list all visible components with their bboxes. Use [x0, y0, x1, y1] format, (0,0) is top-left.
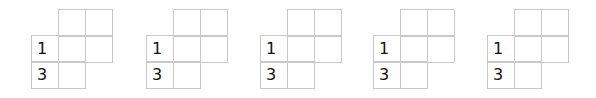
- grid-cell[interactable]: [85, 9, 113, 37]
- grid-cell[interactable]: 1: [487, 35, 515, 63]
- grid-cell[interactable]: [541, 35, 569, 63]
- grid-cell[interactable]: [173, 9, 201, 37]
- clue-digit: 3: [37, 67, 53, 83]
- clue-digit: 3: [152, 67, 168, 83]
- grid-cell[interactable]: [85, 35, 113, 63]
- grid-cell[interactable]: [514, 61, 542, 89]
- clue-digit: 1: [266, 41, 282, 57]
- grid-cell[interactable]: 1: [373, 35, 401, 63]
- clue-digit: 3: [379, 67, 395, 83]
- puzzle-grid-5: 13: [488, 10, 569, 89]
- grid-cell[interactable]: [58, 9, 86, 37]
- grid-cell[interactable]: [287, 61, 315, 89]
- grid-cell[interactable]: [400, 9, 428, 37]
- puzzle-grid-2: 13: [147, 10, 228, 89]
- grid-cell[interactable]: [314, 9, 342, 37]
- grid-cell[interactable]: [173, 61, 201, 89]
- clue-digit: 1: [493, 41, 509, 57]
- grid-cell[interactable]: 3: [31, 61, 59, 89]
- grid-cell[interactable]: [427, 9, 455, 37]
- clue-digit: 1: [152, 41, 168, 57]
- grid-cell[interactable]: 1: [260, 35, 288, 63]
- puzzle-grid-3: 13: [261, 10, 342, 89]
- grid-cell[interactable]: [314, 35, 342, 63]
- clue-digit: 1: [379, 41, 395, 57]
- grid-cell[interactable]: [287, 35, 315, 63]
- grid-cell[interactable]: 1: [31, 35, 59, 63]
- grid-cell[interactable]: [427, 35, 455, 63]
- puzzle-grid-4: 13: [374, 10, 455, 89]
- grid-cell[interactable]: [200, 35, 228, 63]
- grid-cell[interactable]: [514, 9, 542, 37]
- clue-digit: 3: [266, 67, 282, 83]
- clue-digit: 3: [493, 67, 509, 83]
- grid-cell[interactable]: 1: [146, 35, 174, 63]
- grid-cell[interactable]: [200, 9, 228, 37]
- grid-cell[interactable]: [287, 9, 315, 37]
- grid-cell[interactable]: [173, 35, 201, 63]
- grid-cell[interactable]: [58, 61, 86, 89]
- grid-cell[interactable]: [58, 35, 86, 63]
- grid-cell[interactable]: 3: [487, 61, 515, 89]
- grid-cell[interactable]: [400, 61, 428, 89]
- grid-cell[interactable]: [400, 35, 428, 63]
- grid-cell[interactable]: 3: [260, 61, 288, 89]
- grid-cell[interactable]: 3: [146, 61, 174, 89]
- clue-digit: 1: [37, 41, 53, 57]
- grid-cell[interactable]: [514, 35, 542, 63]
- grid-cell[interactable]: [541, 9, 569, 37]
- puzzle-grid-1: 13: [32, 10, 113, 89]
- grid-cell[interactable]: 3: [373, 61, 401, 89]
